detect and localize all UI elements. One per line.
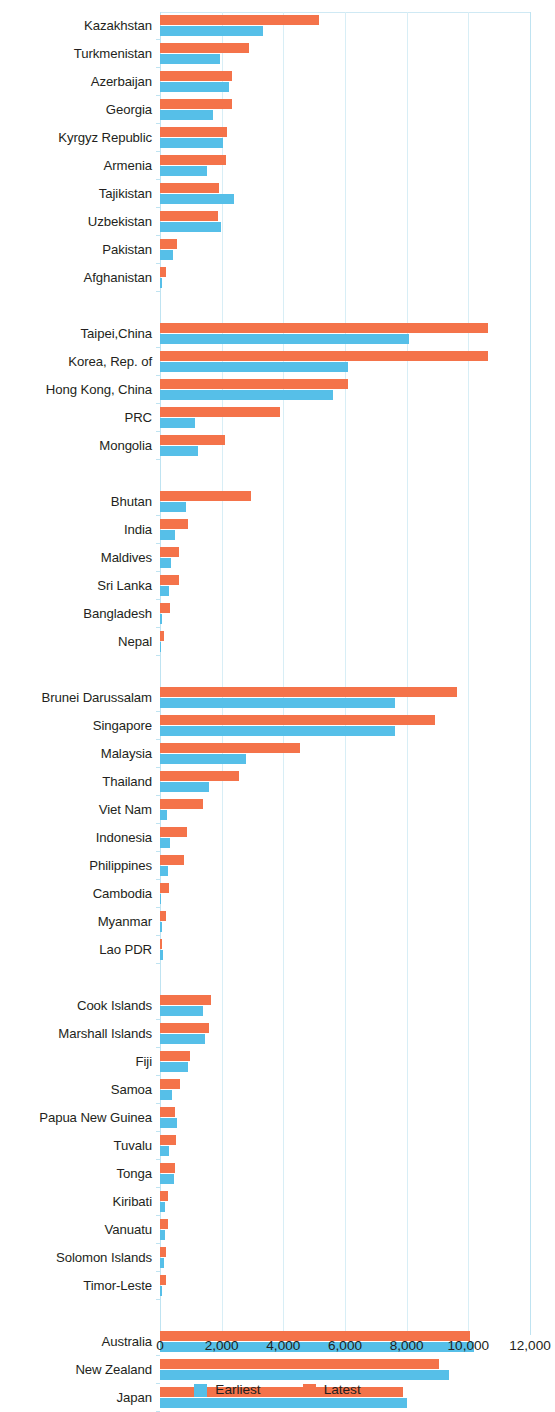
bar-latest[interactable] xyxy=(160,435,225,445)
bar-latest[interactable] xyxy=(160,575,179,585)
bar-group xyxy=(160,600,530,628)
bar-latest[interactable] xyxy=(160,1275,166,1285)
bar-earliest[interactable] xyxy=(160,894,161,904)
bar-earliest[interactable] xyxy=(160,26,263,36)
bar-group xyxy=(160,208,530,236)
bar-earliest[interactable] xyxy=(160,558,171,568)
bar-group xyxy=(160,404,530,432)
bar-earliest[interactable] xyxy=(160,754,246,764)
bar-earliest[interactable] xyxy=(160,446,198,456)
bar-earliest[interactable] xyxy=(160,810,167,820)
bar-earliest[interactable] xyxy=(160,698,395,708)
bar-latest[interactable] xyxy=(160,407,280,417)
bar-latest[interactable] xyxy=(160,687,457,697)
bar-latest[interactable] xyxy=(160,267,166,277)
category-label: Georgia xyxy=(0,103,152,117)
bar-latest[interactable] xyxy=(160,155,226,165)
bar-latest[interactable] xyxy=(160,127,227,137)
bar-latest[interactable] xyxy=(160,771,239,781)
bar-earliest[interactable] xyxy=(160,614,162,624)
bar-latest[interactable] xyxy=(160,43,249,53)
bar-earliest[interactable] xyxy=(160,1062,188,1072)
bar-latest[interactable] xyxy=(160,883,169,893)
bar-latest[interactable] xyxy=(160,239,177,249)
bar-latest[interactable] xyxy=(160,71,232,81)
bar-earliest[interactable] xyxy=(160,1006,203,1016)
bar-latest[interactable] xyxy=(160,939,162,949)
bar-latest[interactable] xyxy=(160,519,188,529)
bar-earliest[interactable] xyxy=(160,418,195,428)
bar-earliest[interactable] xyxy=(160,502,186,512)
bar-earliest[interactable] xyxy=(160,138,223,148)
bar-latest[interactable] xyxy=(160,491,251,501)
bar-earliest[interactable] xyxy=(160,726,395,736)
bar-latest[interactable] xyxy=(160,211,218,221)
bar-earliest[interactable] xyxy=(160,166,207,176)
bar-earliest[interactable] xyxy=(160,194,234,204)
bar-earliest[interactable] xyxy=(160,54,220,64)
bar-group xyxy=(160,796,530,824)
bar-latest[interactable] xyxy=(160,603,170,613)
bar-earliest[interactable] xyxy=(160,390,333,400)
bar-earliest[interactable] xyxy=(160,1034,205,1044)
bar-latest[interactable] xyxy=(160,183,219,193)
bar-earliest[interactable] xyxy=(160,82,229,92)
bar-latest[interactable] xyxy=(160,827,187,837)
bar-earliest[interactable] xyxy=(160,1230,165,1240)
bar-earliest[interactable] xyxy=(160,1202,165,1212)
bar-earliest[interactable] xyxy=(160,950,163,960)
bar-earliest[interactable] xyxy=(160,866,168,876)
bar-latest[interactable] xyxy=(160,1107,175,1117)
x-tick-label: 0 xyxy=(156,1337,164,1355)
bar-earliest[interactable] xyxy=(160,362,348,372)
bar-earliest[interactable] xyxy=(160,278,162,288)
bar-group xyxy=(160,1272,530,1300)
bar-earliest[interactable] xyxy=(160,642,161,652)
bar-earliest[interactable] xyxy=(160,782,209,792)
bar-latest[interactable] xyxy=(160,1219,168,1229)
bar-earliest[interactable] xyxy=(160,586,169,596)
bar-latest[interactable] xyxy=(160,1191,168,1201)
bar-group xyxy=(160,124,530,152)
bar-latest[interactable] xyxy=(160,1079,180,1089)
bar-latest[interactable] xyxy=(160,1023,209,1033)
bar-earliest[interactable] xyxy=(160,530,175,540)
bar-earliest[interactable] xyxy=(160,1258,164,1268)
bar-earliest[interactable] xyxy=(160,1118,177,1128)
bar-earliest[interactable] xyxy=(160,838,170,848)
bar-earliest[interactable] xyxy=(160,1286,162,1296)
bar-latest[interactable] xyxy=(160,1135,176,1145)
bar-latest[interactable] xyxy=(160,995,211,1005)
bar-latest[interactable] xyxy=(160,1359,439,1369)
bar-latest[interactable] xyxy=(160,715,435,725)
bar-latest[interactable] xyxy=(160,15,319,25)
bar-earliest[interactable] xyxy=(160,250,173,260)
bar-latest[interactable] xyxy=(160,351,488,361)
bar-latest[interactable] xyxy=(160,743,300,753)
bar-latest[interactable] xyxy=(160,99,232,109)
category-label: Tajikistan xyxy=(0,187,152,201)
bar-group xyxy=(160,684,530,712)
bar-earliest[interactable] xyxy=(160,1146,169,1156)
legend-item[interactable]: Earliest xyxy=(194,1382,260,1398)
category-label: Afghanistan xyxy=(0,271,152,285)
bar-latest[interactable] xyxy=(160,1163,175,1173)
bar-group xyxy=(160,1188,530,1216)
bar-latest[interactable] xyxy=(160,799,203,809)
bar-latest[interactable] xyxy=(160,1051,190,1061)
bar-earliest[interactable] xyxy=(160,110,213,120)
bar-latest[interactable] xyxy=(160,1247,166,1257)
bar-group xyxy=(160,1244,530,1272)
bar-latest[interactable] xyxy=(160,323,488,333)
bar-earliest[interactable] xyxy=(160,1090,172,1100)
bar-earliest[interactable] xyxy=(160,222,221,232)
legend-item[interactable]: Latest xyxy=(303,1382,361,1398)
bar-earliest[interactable] xyxy=(160,922,162,932)
bar-earliest[interactable] xyxy=(160,1174,174,1184)
bar-latest[interactable] xyxy=(160,379,348,389)
bar-latest[interactable] xyxy=(160,547,179,557)
bar-earliest[interactable] xyxy=(160,334,409,344)
bar-latest[interactable] xyxy=(160,911,166,921)
bar-latest[interactable] xyxy=(160,855,184,865)
bar-latest[interactable] xyxy=(160,631,164,641)
